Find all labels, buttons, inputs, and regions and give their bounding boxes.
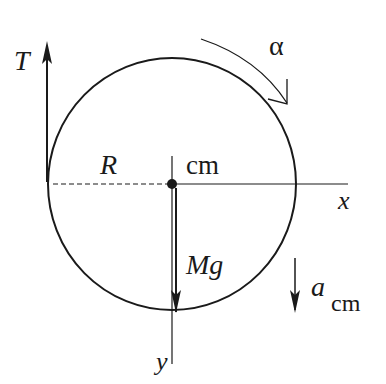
tension-label: T — [14, 45, 32, 76]
weight-label: Mg — [185, 249, 223, 280]
center-of-mass-dot — [167, 179, 177, 189]
center-of-mass-label: cm — [186, 150, 219, 180]
acceleration-label: a — [311, 271, 325, 302]
free-body-diagram: T α R cm x y Mg a cm — [0, 0, 386, 384]
acceleration-subscript-label: cm — [331, 290, 361, 316]
y-axis-label: y — [153, 347, 168, 376]
radius-label: R — [99, 149, 117, 180]
angular-acceleration-label: α — [269, 30, 284, 61]
x-axis-label: x — [337, 186, 350, 215]
